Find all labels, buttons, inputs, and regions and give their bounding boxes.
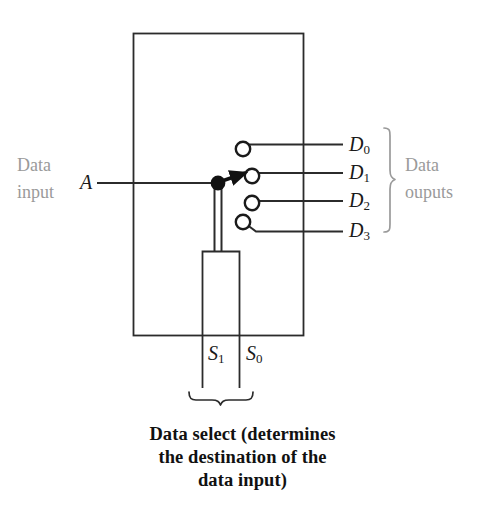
select-block-rect (203, 252, 240, 337)
select-label-s0-sub: 0 (256, 351, 263, 366)
output-label-d0: D0 (349, 134, 370, 156)
output-contact-d0[interactable] (236, 142, 250, 156)
output-label-d1: D1 (349, 162, 370, 184)
output-label-d2: D2 (349, 190, 370, 212)
caption-line-2: the destination of the (0, 446, 485, 469)
select-label-s0-base: S (246, 342, 256, 364)
figure-canvas: Data input A D0 D1 D2 D3 Data ouputs S1 … (0, 0, 485, 521)
data-select-brace (189, 392, 253, 405)
switch-pivot-dot (211, 176, 226, 191)
output-label-d2-sub: 2 (363, 198, 370, 213)
data-outputs-brace (384, 128, 395, 232)
output-line-d3 (248, 226, 343, 232)
select-label-s1: S1 (208, 343, 225, 365)
caption-line-3: data input) (0, 469, 485, 492)
data-outputs-note-line1: Data (405, 156, 439, 174)
data-input-note-line2: input (17, 183, 54, 201)
output-label-d0-sub: 0 (363, 142, 370, 157)
signal-label-a: A (80, 172, 92, 192)
data-outputs-note-line2: ouputs (405, 183, 453, 201)
output-label-d3: D3 (349, 220, 370, 242)
output-label-d1-base: D (349, 161, 363, 183)
select-label-s1-base: S (208, 342, 218, 364)
select-label-s0: S0 (246, 343, 263, 365)
data-input-note-line1: Data (17, 156, 51, 174)
output-label-d2-base: D (349, 189, 363, 211)
select-label-s1-sub: 1 (218, 351, 225, 366)
output-contact-d3[interactable] (236, 215, 250, 229)
caption-line-1: Data select (determines (0, 423, 485, 446)
output-label-d1-sub: 1 (363, 170, 370, 185)
output-contact-d2[interactable] (245, 196, 259, 210)
output-label-d3-sub: 3 (363, 228, 370, 243)
output-label-d0-base: D (349, 133, 363, 155)
output-contact-d1[interactable] (245, 169, 259, 183)
output-label-d3-base: D (349, 219, 363, 241)
